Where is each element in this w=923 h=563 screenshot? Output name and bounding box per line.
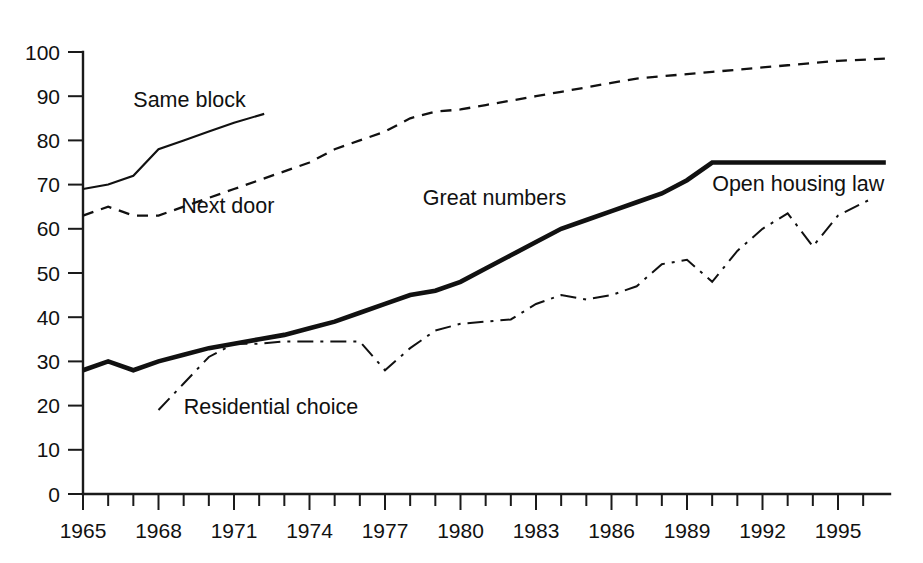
series-label-residential-choice: Residential choice (184, 395, 359, 419)
x-axis-ticks (83, 494, 863, 510)
y-tick-label-90: 90 (37, 85, 60, 108)
y-tick-label-70: 70 (37, 173, 60, 196)
y-tick-label-20: 20 (37, 394, 60, 417)
x-tick-label-1989: 1989 (664, 519, 711, 542)
x-tick-label-1992: 1992 (739, 519, 786, 542)
x-axis: 1965196819711974197719801983198619891992… (60, 494, 890, 542)
line-chart: 0102030405060708090100 19651968197119741… (0, 0, 923, 563)
x-tick-label-1983: 1983 (513, 519, 560, 542)
y-tick-label-0: 0 (48, 483, 60, 506)
x-tick-label-1995: 1995 (815, 519, 862, 542)
y-axis: 0102030405060708090100 (25, 41, 83, 506)
y-tick-label-60: 60 (37, 217, 60, 240)
y-axis-ticks (68, 52, 83, 494)
x-tick-label-1980: 1980 (437, 519, 484, 542)
x-tick-label-1977: 1977 (362, 519, 409, 542)
y-tick-label-100: 100 (25, 41, 60, 64)
y-tick-label-40: 40 (37, 306, 60, 329)
annotation-open-housing-law: Open housing law (712, 172, 885, 196)
y-tick-label-30: 30 (37, 350, 60, 373)
x-axis-tick-labels: 1965196819711974197719801983198619891992… (60, 519, 862, 542)
y-tick-label-80: 80 (37, 129, 60, 152)
y-tick-label-50: 50 (37, 262, 60, 285)
x-tick-label-1971: 1971 (211, 519, 258, 542)
series-line-residential-choice (159, 198, 874, 410)
x-tick-label-1968: 1968 (135, 519, 182, 542)
y-tick-label-10: 10 (37, 438, 60, 461)
series-line-same-block (83, 114, 264, 189)
y-axis-tick-labels: 0102030405060708090100 (25, 41, 60, 506)
x-tick-label-1965: 1965 (60, 519, 107, 542)
series-label-great-numbers: Great numbers (423, 186, 566, 210)
x-tick-label-1974: 1974 (286, 519, 333, 542)
series-label-next-door: Next door (181, 194, 274, 218)
x-tick-label-1986: 1986 (588, 519, 635, 542)
series-label-same-block: Same block (133, 88, 246, 112)
chart-canvas: 0102030405060708090100 19651968197119741… (0, 0, 923, 563)
